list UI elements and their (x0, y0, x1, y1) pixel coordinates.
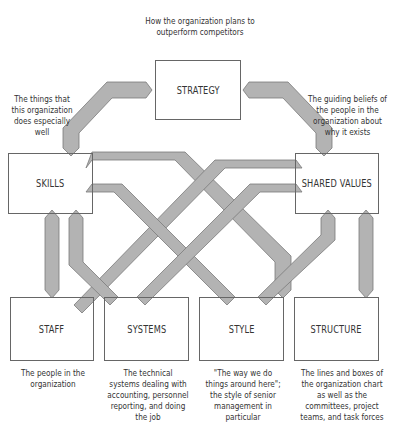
shared-values-box: SHARED VALUES (295, 153, 379, 214)
staff-box: STAFF (10, 297, 94, 361)
arrow-shared-values-structure (359, 210, 373, 298)
style-description: "The way we do things around here"; the … (197, 368, 289, 423)
structure-label: STRUCTURE (311, 324, 362, 335)
arrow-skills-staff (45, 210, 59, 298)
staff-description: The people in the organization (8, 368, 98, 390)
strategy-box: STRATEGY (155, 60, 241, 120)
seven-s-diagram: How the organization plans to outperform… (0, 0, 395, 424)
arrow-shared-values-style (258, 210, 335, 305)
strategy-description: How the organization plans to outperform… (130, 16, 270, 38)
shared-values-label: SHARED VALUES (302, 178, 372, 189)
skills-label: SKILLS (36, 178, 64, 189)
shared-values-description: The guiding beliefs of the people in the… (300, 94, 395, 138)
systems-description: The technical systems dealing with accou… (100, 368, 196, 423)
systems-label: SYSTEMS (127, 324, 166, 335)
structure-description: The lines and boxes of the organization … (292, 368, 392, 423)
staff-label: STAFF (39, 324, 64, 335)
strategy-label: STRATEGY (176, 85, 219, 96)
systems-box: SYSTEMS (104, 297, 189, 361)
style-label: STYLE (229, 324, 255, 335)
skills-box: SKILLS (8, 153, 93, 214)
style-box: STYLE (199, 297, 284, 361)
structure-box: STRUCTURE (294, 297, 379, 361)
skills-description: The things that this organization does e… (2, 94, 82, 138)
